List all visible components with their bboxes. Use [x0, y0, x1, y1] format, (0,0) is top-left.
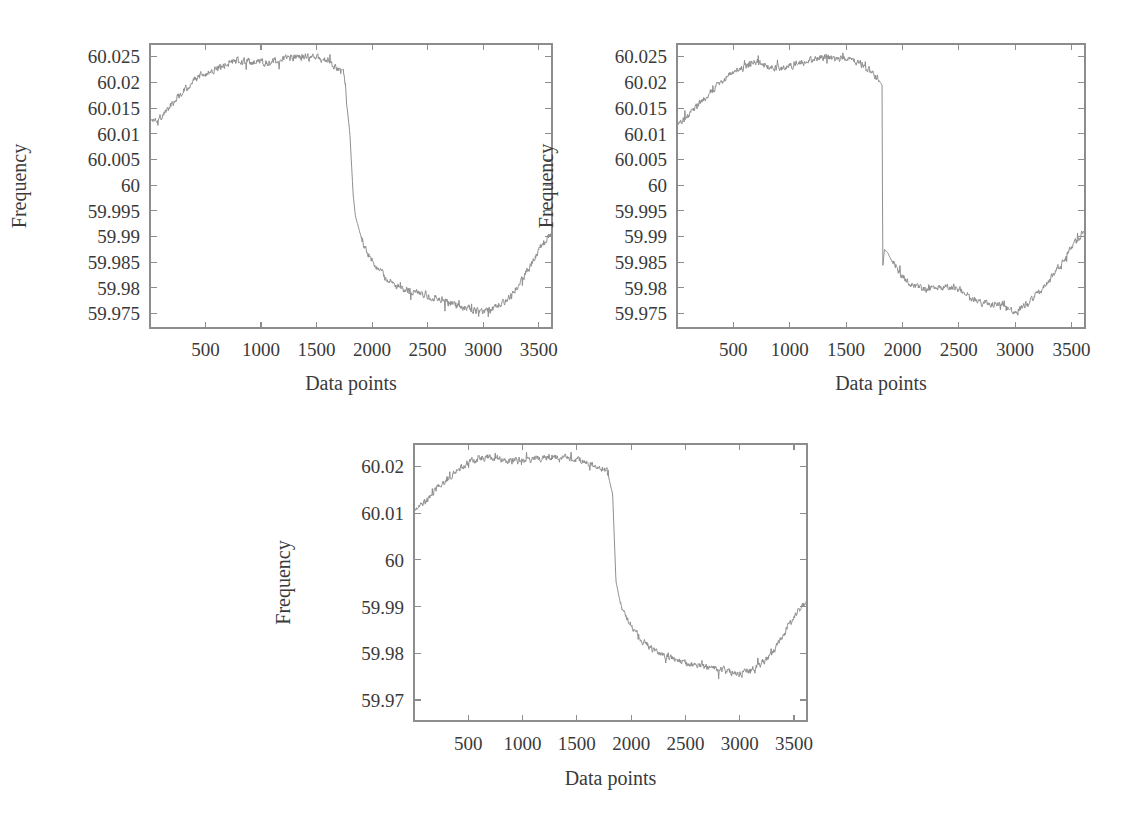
x-axis-tick-label: 2500: [940, 339, 978, 360]
y-axis-tick-label: 59.99: [97, 226, 140, 247]
y-axis-tick-label: 60.01: [97, 124, 140, 145]
y-axis-tick-label: 60.025: [88, 46, 140, 67]
x-axis-tick-label: 3000: [464, 339, 502, 360]
x-axis-tick-label: 1500: [298, 339, 336, 360]
y-axis-title: Frequency: [272, 540, 295, 624]
y-axis-tick-label: 59.985: [88, 252, 140, 273]
x-axis-tick-label: 1000: [504, 733, 542, 754]
x-axis-tick-label: 500: [191, 339, 220, 360]
y-axis-tick-label: 60: [121, 175, 140, 196]
y-axis-title: Frequency: [535, 144, 558, 228]
y-axis-tick-label: 59.98: [97, 278, 140, 299]
y-axis-tick-label: 60.02: [97, 72, 140, 93]
x-axis-tick-label: 1500: [558, 733, 596, 754]
x-axis-tick-label: 2500: [666, 733, 704, 754]
x-axis-tick-label: 3500: [1052, 339, 1090, 360]
y-axis-tick-label: 59.99: [361, 597, 404, 618]
x-axis-tick-label: 3000: [996, 339, 1034, 360]
x-axis-tick-label: 500: [719, 339, 748, 360]
x-axis-title: Data points: [565, 767, 657, 790]
plot-frame: [677, 44, 1085, 328]
chart-panel-bottom-center: 59.9759.9859.996060.0160.025001000150020…: [264, 418, 864, 821]
y-axis-title: Frequency: [8, 144, 31, 228]
y-axis-tick-label: 59.98: [361, 643, 404, 664]
y-axis-tick-label: 60.025: [615, 46, 667, 67]
plot-svg: 59.97559.9859.98559.9959.9956060.00560.0…: [0, 18, 560, 420]
y-axis-tick-label: 59.98: [624, 278, 667, 299]
chart-panel-top-left: 59.97559.9859.98559.9959.9956060.00560.0…: [0, 18, 560, 420]
x-axis-tick-label: 3500: [775, 733, 813, 754]
y-axis-tick-label: 60.02: [624, 72, 667, 93]
data-trace-frequency: [414, 452, 807, 679]
y-axis-tick-label: 59.995: [88, 201, 140, 222]
figure-three-frequency-plots: 59.97559.9859.98559.9959.9956060.00560.0…: [0, 0, 1125, 821]
x-axis-tick-label: 1500: [827, 339, 865, 360]
plot-svg: 59.97559.9859.98559.9959.9956060.00560.0…: [527, 18, 1125, 420]
y-axis-tick-label: 59.97: [361, 690, 404, 711]
y-axis-tick-label: 60: [648, 175, 667, 196]
x-axis-tick-label: 2000: [353, 339, 391, 360]
y-axis-tick-label: 59.985: [615, 252, 667, 273]
y-axis-tick-label: 60.015: [615, 98, 667, 119]
plot-frame: [150, 44, 552, 328]
x-axis-tick-label: 2500: [409, 339, 447, 360]
x-axis-tick-label: 500: [454, 733, 483, 754]
x-axis-tick-label: 3000: [721, 733, 759, 754]
y-axis-tick-label: 59.99: [624, 226, 667, 247]
y-axis-tick-label: 60.005: [615, 149, 667, 170]
y-axis-tick-label: 59.975: [88, 303, 140, 324]
y-axis-tick-label: 60.02: [361, 456, 404, 477]
x-axis-tick-label: 2000: [612, 733, 650, 754]
y-axis-tick-label: 60.01: [624, 124, 667, 145]
y-axis-tick-label: 59.995: [615, 201, 667, 222]
y-axis-tick-label: 59.975: [615, 303, 667, 324]
data-trace-frequency: [150, 54, 552, 317]
x-axis-title: Data points: [835, 372, 927, 395]
data-trace-frequency: [677, 53, 1085, 315]
y-axis-tick-label: 60.01: [361, 503, 404, 524]
chart-panel-top-right: 59.97559.9859.98559.9959.9956060.00560.0…: [527, 18, 1125, 420]
y-axis-tick-label: 60.005: [88, 149, 140, 170]
x-axis-tick-label: 2000: [883, 339, 921, 360]
x-axis-tick-label: 1000: [771, 339, 809, 360]
plot-svg: 59.9759.9859.996060.0160.025001000150020…: [264, 418, 864, 821]
x-axis-title: Data points: [305, 372, 397, 395]
x-axis-tick-label: 1000: [242, 339, 280, 360]
y-axis-tick-label: 60: [385, 550, 404, 571]
y-axis-tick-label: 60.015: [88, 98, 140, 119]
